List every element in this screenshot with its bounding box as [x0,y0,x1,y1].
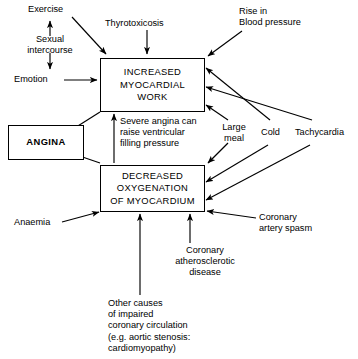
label-cold: Cold [261,127,280,138]
arrow-tachycardia-to-increased-work [206,87,312,120]
arrow-large-meal-to-decreased-oxygenation [208,143,228,163]
angina-pathophysiology-diagram: INCREASED MYOCARDIAL WORK DECREASED OXYG… [0,0,358,359]
arrow-coronary-artery-spasm-to-decreased-oxygenation [207,211,256,218]
node-decreased-oxygenation: DECREASED OXYGENATION OF MYOCARDIUM [100,165,205,212]
arrow-cold-to-decreased-oxygenation [206,145,268,182]
label-coronary-atherosclerotic-disease: Coronary atherosclerotic disease [150,245,260,279]
label-sexual-intercourse: Sexual intercourse [14,34,86,56]
node-decreased-oxygenation-label: DECREASED OXYGENATION OF MYOCARDIUM [110,170,195,207]
node-increased-myocardial-work-label: INCREASED MYOCARDIAL WORK [120,66,185,103]
node-angina-label: ANGINA [26,136,65,148]
label-other-causes: Other causes of impaired coronary circul… [108,298,190,354]
arrow-large-meal-to-increased-work [206,105,228,120]
label-thyrotoxicosis: Thyrotoxicosis [105,18,164,29]
label-emotion: Emotion [14,74,48,85]
label-severe-angina-note: Severe angina can raise ventricular fill… [120,116,197,150]
label-exercise: Exercise [28,4,63,15]
node-increased-myocardial-work: INCREASED MYOCARDIAL WORK [100,58,205,112]
label-coronary-artery-spasm: Coronary artery spasm [259,212,312,234]
label-anaemia: Anaemia [14,217,50,228]
arrow-blood-pressure-to-increased-work [208,31,242,56]
arrow-anaemia-to-decreased-oxygenation [62,212,99,222]
label-rise-in-blood-pressure: Rise in Blood pressure [239,6,301,28]
label-large-meal: Large meal [216,122,252,144]
label-tachycardia: Tachycardia [295,127,344,138]
node-angina: ANGINA [8,125,84,160]
